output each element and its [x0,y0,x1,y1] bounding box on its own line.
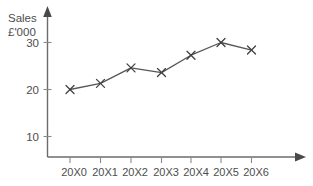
x-tick-label-4: 20X4 [183,166,209,178]
sales-series-line [70,43,252,90]
x-axis-ticks [70,157,252,163]
x-axis [48,153,307,162]
y-axis-arrowhead [43,6,52,17]
y-axis [43,6,52,157]
x-tick-label-1: 20X1 [92,166,118,178]
x-tick-label-3: 20X3 [153,166,179,178]
x-axis-arrowhead [295,153,306,162]
data-point-marker [217,39,225,47]
data-point-marker [187,51,195,59]
x-tick-label-2: 20X2 [122,166,148,178]
y-axis-title-line1: Sales [8,12,37,24]
y-tick-label-30: 30 [26,37,39,49]
y-tick-label-20: 20 [26,84,39,96]
data-point-marker [248,46,256,54]
x-axis-labels: 20X0 20X1 20X2 20X3 20X4 20X5 20X6 [61,166,269,178]
y-tick-label-10: 10 [26,131,39,143]
x-tick-label-6: 20X6 [243,166,269,178]
sales-line-chart: Sales £'000 30 20 10 [0,0,313,186]
x-tick-label-5: 20X5 [213,166,239,178]
x-tick-label-0: 20X0 [61,166,87,178]
chart-canvas: Sales £'000 30 20 10 [0,0,313,186]
